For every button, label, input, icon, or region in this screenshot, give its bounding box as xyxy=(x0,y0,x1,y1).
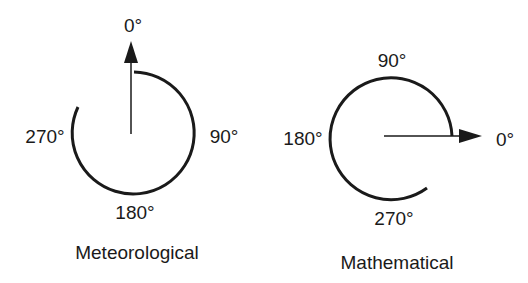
mathematical-label-top: 90° xyxy=(378,51,407,70)
meteorological-compass xyxy=(72,41,194,194)
meteorological-arrowhead-icon xyxy=(124,41,138,63)
mathematical-arrowhead-icon xyxy=(459,129,482,143)
mathematical-label-bottom: 270° xyxy=(374,209,413,228)
meteorological-label-bottom: 180° xyxy=(115,203,154,222)
mathematical-label-left: 180° xyxy=(283,129,322,148)
meteorological-label-top: 0° xyxy=(124,16,142,35)
mathematical-arc xyxy=(330,78,452,200)
meteorological-arc xyxy=(72,72,194,194)
mathematical-label-right: 0° xyxy=(496,130,514,149)
mathematical-caption: Mathematical xyxy=(341,253,454,272)
mathematical-compass xyxy=(330,78,482,200)
meteorological-caption: Meteorological xyxy=(75,243,199,262)
meteorological-label-right: 90° xyxy=(210,127,239,146)
meteorological-label-left: 270° xyxy=(25,127,64,146)
